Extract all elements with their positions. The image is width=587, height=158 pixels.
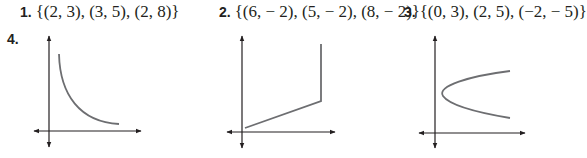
graph-b (227, 36, 335, 148)
line-then-vertical (245, 44, 321, 128)
graph-a (34, 36, 141, 147)
decreasing-curve (59, 54, 119, 124)
sideways-parabola (442, 71, 510, 118)
graph-c (419, 36, 525, 148)
